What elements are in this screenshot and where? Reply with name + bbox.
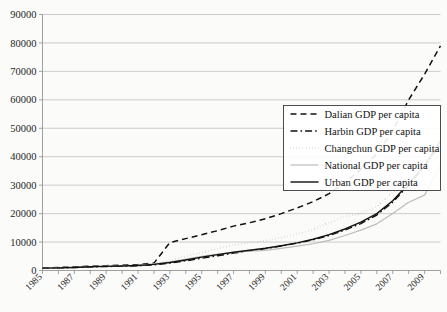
x-axis-tick-labels: 1985198719891991199319951997199920012003…: [23, 272, 426, 293]
x-axis-ticks: [43, 271, 441, 275]
gdp-per-capita-line-chart: 0100002000030000400005000060000700008000…: [0, 0, 447, 312]
y-axis-tick-label: 60000: [10, 94, 36, 105]
x-axis-tick-label: 2003: [310, 272, 331, 293]
legend-item-label: Dalian GDP per capita: [325, 109, 420, 120]
x-axis-tick-label: 1997: [214, 272, 235, 293]
y-axis-tick-label: 40000: [10, 151, 36, 162]
x-axis-tick-label: 1987: [55, 272, 76, 293]
y-axis-tick-label: 70000: [10, 66, 36, 77]
x-axis-tick-label: 1993: [151, 272, 172, 293]
legend-item-label: Changchun GDP per capita: [325, 143, 440, 154]
x-axis-tick-label: 1991: [119, 272, 140, 293]
y-axis-tick-label: 80000: [10, 38, 36, 49]
y-axis-tick-label: 20000: [10, 208, 36, 219]
chart-canvas: 0100002000030000400005000060000700008000…: [0, 0, 447, 312]
legend-item-label: Urban GDP per capita: [325, 177, 419, 188]
x-axis-tick-label: 1989: [87, 272, 108, 293]
y-axis-tick-label: 50000: [10, 123, 36, 134]
x-axis-tick-label: 1985: [23, 272, 44, 293]
x-axis-tick-label: 2007: [374, 272, 395, 293]
legend-item-label: Harbin GDP per capita: [325, 126, 421, 137]
chart-legend[interactable]: Dalian GDP per capitaHarbin GDP per capi…: [284, 106, 441, 191]
x-axis-tick-label: 1995: [183, 272, 204, 293]
legend-item-label: National GDP per capita: [325, 160, 428, 171]
y-axis-tick-label: 10000: [10, 237, 36, 248]
x-axis-tick-label: 2009: [405, 272, 426, 293]
x-axis-tick-label: 1999: [246, 272, 267, 293]
y-axis-tick-label: 90000: [10, 9, 36, 20]
x-axis-tick-label: 2001: [278, 272, 299, 293]
y-axis-tick-labels: 0100002000030000400005000060000700008000…: [10, 9, 36, 276]
y-axis-tick-label: 30000: [10, 180, 36, 191]
x-axis-tick-label: 2005: [342, 272, 363, 293]
